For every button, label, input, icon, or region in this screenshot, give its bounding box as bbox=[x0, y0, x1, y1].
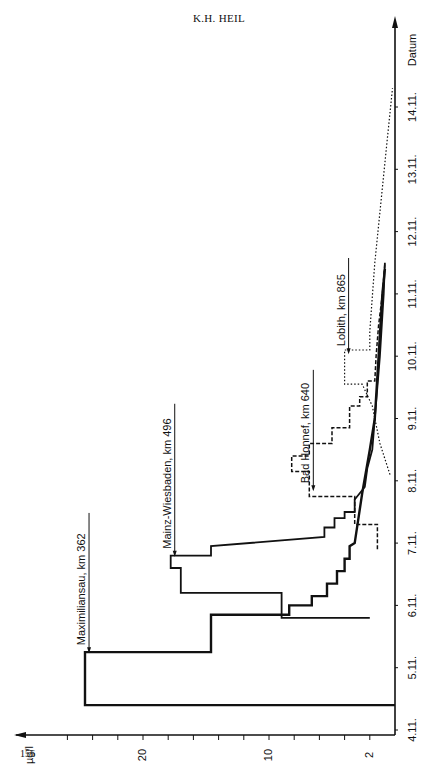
series-annotation: Maximiliansau, km 362 bbox=[75, 533, 87, 645]
annotation-arrow-icon bbox=[311, 485, 315, 491]
series-annotation: Mainz-Wiesbaden, km 496 bbox=[161, 418, 173, 548]
date-axis-arrow-icon bbox=[392, 16, 398, 28]
value-axis-label: µg/l bbox=[23, 746, 35, 764]
series-annotation: Lobith, km 865 bbox=[335, 274, 347, 346]
chart: 4.11.5.11.6.11.7.11.8.11.9.11.10.11.11.1… bbox=[0, 0, 438, 770]
date-tick-label: 9.11. bbox=[406, 407, 418, 431]
date-tick-label: 7.11. bbox=[406, 531, 418, 555]
date-tick-label: 6.11. bbox=[406, 594, 418, 618]
annotation-arrow-icon bbox=[347, 348, 351, 354]
series-annotation: Bad Honnef, km 640 bbox=[299, 383, 311, 483]
date-tick-label: 13.11. bbox=[406, 154, 418, 184]
date-tick-label: 5.11. bbox=[406, 656, 418, 680]
value-tick-label: 10 bbox=[262, 749, 274, 761]
value-axis-arrow-icon bbox=[14, 732, 26, 738]
date-tick-label: 14.11. bbox=[406, 92, 418, 122]
series-line bbox=[345, 88, 393, 474]
value-tick-label: 20 bbox=[136, 749, 148, 761]
date-tick-label: 4.11. bbox=[406, 718, 418, 742]
date-tick-label: 12.11. bbox=[406, 217, 418, 247]
date-tick-label: 11.11. bbox=[406, 279, 418, 308]
date-tick-label: 8.11. bbox=[406, 469, 418, 493]
date-tick-label: 10.11. bbox=[406, 341, 418, 371]
value-tick-label: 2 bbox=[363, 752, 375, 758]
date-axis-label: Datum bbox=[406, 34, 418, 66]
series-line bbox=[171, 263, 385, 618]
